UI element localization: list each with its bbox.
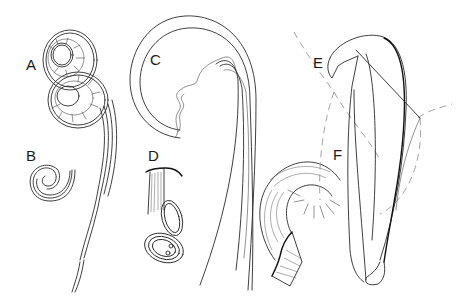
panel-b-drawing <box>30 165 75 201</box>
panel-label-c: C <box>150 52 161 67</box>
panel-f-drawing <box>260 162 340 286</box>
panel-label-e: E <box>313 55 323 70</box>
panel-a-drawing <box>43 30 117 292</box>
panel-label-b: B <box>26 148 36 163</box>
scientific-figure: A B C D E F <box>0 0 458 300</box>
panel-label-d: D <box>148 148 159 163</box>
panel-label-f: F <box>333 147 342 162</box>
panel-d-drawing <box>140 168 187 268</box>
panel-label-a: A <box>26 57 36 72</box>
figure-drawing <box>0 0 458 300</box>
